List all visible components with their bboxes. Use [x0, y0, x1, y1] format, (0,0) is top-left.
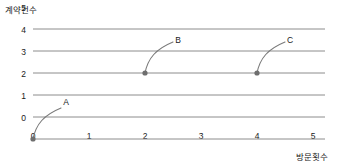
curve-c	[257, 42, 285, 73]
marker-c	[254, 70, 259, 75]
data-point-markers	[30, 70, 259, 141]
marker-b	[142, 70, 147, 75]
plot-area	[0, 0, 344, 167]
gridlines	[33, 29, 325, 139]
marker-a	[30, 136, 35, 141]
series-curves	[33, 42, 285, 139]
curve-b	[145, 42, 173, 73]
chart-container: 계약건수 방문횟수 0 1 2 3 4 5 0 1 2 3 4 5 A B C	[0, 0, 344, 167]
curve-a	[33, 108, 61, 139]
